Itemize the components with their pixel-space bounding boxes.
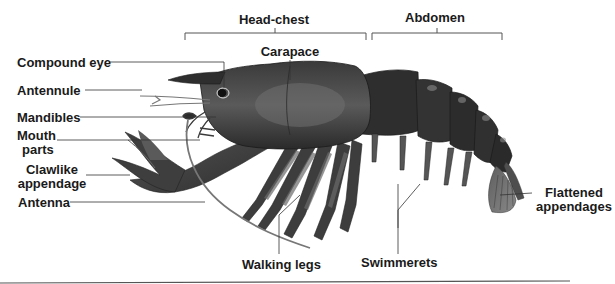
carapace-shape [200,61,370,149]
label-antennule: Antennule [17,83,81,98]
label-mouth-parts-line2: parts [22,142,54,157]
label-flattened-line1: Flattened [534,185,614,200]
label-carapace: Carapace [255,44,325,59]
antennules-shape [140,96,210,106]
label-mandibles: Mandibles [17,110,81,125]
crayfish-illustration [0,0,615,284]
label-compound-eye: Compound eye [17,55,111,70]
label-walking-legs: Walking legs [242,257,321,272]
abdomen-bracket [372,28,502,40]
label-head-chest: Head-chest [234,12,314,27]
label-swimmerets: Swimmerets [361,255,438,270]
label-abdomen: Abdomen [400,10,470,25]
label-clawlike-line2: appendage [17,176,87,191]
rostrum-shape [168,72,225,84]
abdomen-shape [360,70,512,172]
label-clawlike-line1: Clawlike [17,162,87,177]
label-mouth-parts-line1: Mouth [17,128,56,143]
bottom-divider [0,281,570,283]
compound-eye-shape [218,89,227,97]
crayfish-diagram: Head-chest Abdomen Carapace Compound eye… [0,0,615,284]
flattened-appendages-shape [489,162,524,213]
label-flattened-line2: appendages [534,199,614,214]
head-chest-bracket [185,28,366,40]
label-antenna: Antenna [18,195,70,210]
